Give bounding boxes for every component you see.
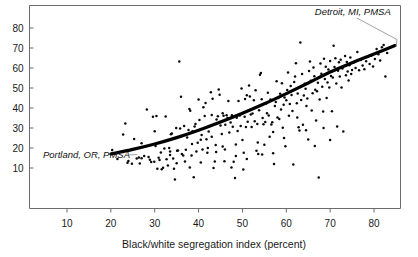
data-point [206,152,209,155]
data-point [384,75,387,78]
data-point [242,152,245,155]
data-point [332,76,335,79]
data-point [349,56,352,59]
data-point [232,126,235,129]
data-point [339,75,342,78]
data-point [339,59,342,62]
data-point [158,159,161,162]
data-point [191,143,194,146]
data-point [246,158,249,161]
data-point [239,125,242,128]
data-point [301,73,304,76]
chart-page: 1020304050607080 1020304050607080 Detroi… [0,0,418,257]
x-tick-label: 80 [368,218,380,229]
y-tick-label: 20 [12,143,24,154]
data-point [358,69,361,72]
data-point [273,163,276,166]
y-tick-label: 10 [12,163,24,174]
data-point [333,66,336,69]
data-point [177,149,180,152]
data-point [150,161,153,164]
data-point [215,118,218,121]
data-point [289,103,292,106]
x-tick-label: 60 [281,218,293,229]
data-point [187,129,190,132]
data-point [253,120,256,123]
x-tick-label: 50 [237,218,249,229]
data-point [326,81,329,84]
data-point [221,145,224,148]
data-point [317,176,320,179]
data-point [200,161,203,164]
data-point [210,114,213,117]
x-tick-label: 30 [149,218,161,229]
data-point [200,134,203,137]
x-axis-title: Black/white segregation index (percent) [122,238,306,250]
data-point [165,158,168,161]
data-point [237,100,240,103]
data-point [214,160,217,163]
data-point [235,155,238,158]
data-point [174,178,177,181]
data-point [227,100,230,103]
data-point [193,125,196,128]
data-point [286,89,289,92]
data-point [305,129,308,132]
data-point [250,126,253,129]
data-point [324,78,327,81]
data-point [290,94,293,97]
data-point [318,98,321,101]
data-point [146,108,149,111]
data-point [282,104,285,107]
data-point [230,166,233,169]
data-point [345,74,348,77]
data-point [153,161,156,164]
data-point [175,162,178,165]
data-point [190,154,193,157]
data-point [294,75,297,78]
data-point [133,138,136,141]
data-point [288,115,291,118]
data-point [155,115,158,118]
data-point [228,131,231,134]
data-point [382,44,385,47]
data-point [210,91,213,94]
data-point [379,59,382,62]
data-point [184,160,187,163]
data-point [329,139,332,142]
data-point [162,167,165,170]
data-point [381,46,384,49]
x-tick-label: 40 [193,218,205,229]
data-point [386,52,389,55]
data-point [311,92,314,95]
data-point [192,176,195,179]
data-point [297,126,300,129]
data-point [143,155,146,158]
data-point [310,109,313,112]
data-point [305,105,308,108]
data-point [178,60,181,63]
data-point [183,125,186,128]
data-point [254,89,256,92]
data-point [218,94,221,97]
data-point [221,133,224,136]
data-point [275,80,278,83]
data-point [243,116,246,119]
data-point [363,68,366,71]
data-point [368,63,371,66]
data-point [263,144,266,147]
data-point [127,160,130,163]
data-point [200,139,203,142]
data-point [122,133,125,136]
data-point [235,143,238,146]
data-point [223,160,226,163]
y-tick-label: 30 [12,123,24,134]
data-point [189,110,192,113]
data-point [260,98,263,101]
data-point [194,123,197,126]
data-point [285,99,288,102]
data-point [219,124,222,127]
data-point [167,164,170,167]
data-point [307,138,310,141]
data-point [278,118,281,121]
